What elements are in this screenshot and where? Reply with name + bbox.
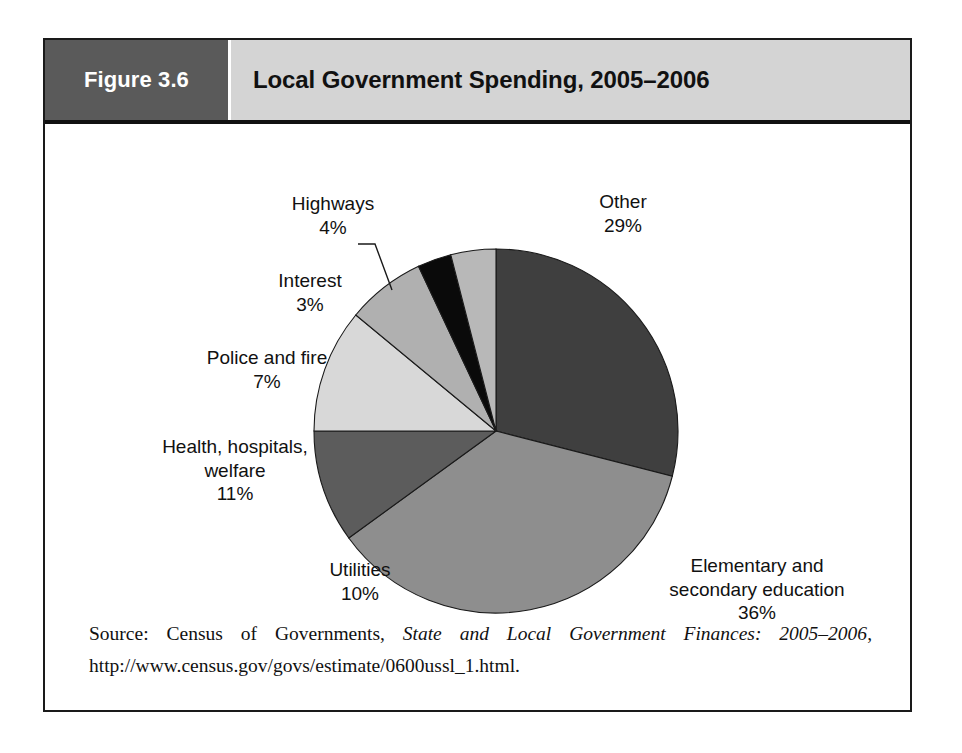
source-note: Source: Census of Governments, State and…	[45, 618, 910, 681]
figure-title-box: Local Government Spending, 2005–2006	[231, 40, 910, 120]
pie-leader-line-group	[358, 244, 392, 290]
figure-number-label: Figure 3.6	[84, 67, 189, 93]
pie-slice-label-text: Police and fire 7%	[207, 346, 327, 393]
leader-line-highways	[358, 244, 392, 290]
pie-slice-label-text: Utilities 10%	[329, 558, 390, 605]
figure-frame: Figure 3.6 Local Government Spending, 20…	[43, 38, 912, 712]
pie-slice-label-text: Highways 4%	[292, 192, 374, 239]
pie-slice-label-text: Other 29%	[599, 190, 647, 237]
pie-chart: Other 29%Elementary and secondary educat…	[45, 124, 910, 614]
figure-number-box: Figure 3.6	[45, 40, 231, 120]
pie-chart-svg	[45, 124, 910, 614]
pie-slice-label-text: Interest 3%	[278, 269, 341, 316]
pie-slice-label-text: Elementary and secondary education 36%	[669, 554, 844, 625]
figure-header-band: Figure 3.6 Local Government Spending, 20…	[45, 40, 910, 124]
pie-slice-label-text: Health, hospitals, welfare 11%	[162, 435, 308, 506]
page-title: Local Government Spending, 2005–2006	[253, 66, 710, 94]
source-prefix: Source: Census of Governments,	[89, 623, 403, 644]
source-publication-title: State and Local Government Finances: 200…	[403, 623, 867, 644]
